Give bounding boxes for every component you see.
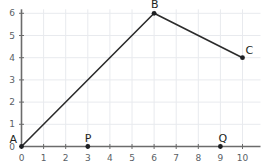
y-tick-label-6: 6 <box>2 9 15 18</box>
x-tick-label-3: 3 <box>85 154 91 163</box>
gridlines <box>22 9 261 146</box>
point-label-b: B <box>151 0 159 10</box>
y-tick-label-3: 3 <box>2 75 15 84</box>
point-label-a: A <box>10 134 18 145</box>
x-tick-label-10: 10 <box>237 154 248 163</box>
x-tick-label-8: 8 <box>195 154 201 163</box>
x-tick-label-5: 5 <box>129 154 135 163</box>
y-tick-label-4: 4 <box>2 53 15 62</box>
x-tick-label-9: 9 <box>218 154 224 163</box>
point-marker-b <box>152 11 157 16</box>
point-label-p: P <box>85 133 92 144</box>
y-tick-label-1: 1 <box>2 120 15 129</box>
chart-canvas: 012345678910 0123456 ABCPQ <box>0 0 261 165</box>
point-label-c: C <box>246 45 254 56</box>
y-tick-label-2: 2 <box>2 98 15 107</box>
point-marker-p <box>85 144 90 149</box>
point-label-q: Q <box>218 133 227 144</box>
x-tick-label-2: 2 <box>63 154 69 163</box>
point-marker-a <box>19 144 24 149</box>
point-marker-c <box>240 55 245 60</box>
x-tick-label-4: 4 <box>107 154 113 163</box>
axes <box>19 9 261 149</box>
x-tick-label-6: 6 <box>151 154 157 163</box>
y-tick-label-5: 5 <box>2 31 15 40</box>
point-marker-q <box>218 144 223 149</box>
x-tick-label-1: 1 <box>41 154 47 163</box>
x-tick-label-7: 7 <box>173 154 179 163</box>
x-tick-label-0: 0 <box>19 154 25 163</box>
